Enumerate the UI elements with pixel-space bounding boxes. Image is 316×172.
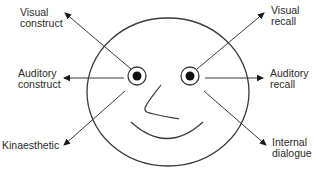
label-visual-recall: Visual recall xyxy=(271,5,299,27)
label-kinaesthetic-line1: Kinaesthetic xyxy=(2,140,59,151)
label-kinaesthetic: Kinaesthetic xyxy=(2,140,59,151)
label-auditory-construct: Auditory construct xyxy=(18,68,61,90)
visual-construct-arrow xyxy=(65,13,131,69)
right-eye-icon xyxy=(181,67,199,85)
label-visual-construct: Visual construct xyxy=(20,7,63,29)
label-auditory-recall: Auditory recall xyxy=(270,68,309,90)
nose-icon xyxy=(145,85,179,119)
visual-recall-arrow xyxy=(197,13,264,69)
label-auditory-recall-line2: recall xyxy=(270,79,309,90)
face-outline xyxy=(87,18,249,166)
label-internal-dialogue-line2: dialogue xyxy=(272,148,312,159)
left-eye-icon xyxy=(128,67,146,85)
label-visual-recall-line2: recall xyxy=(271,16,299,27)
label-visual-construct-line2: construct xyxy=(20,18,63,29)
label-auditory-construct-line2: construct xyxy=(18,79,61,90)
label-internal-dialogue: Internal dialogue xyxy=(272,137,312,159)
internal-dialogue-arrow xyxy=(204,91,266,145)
kinaesthetic-arrow xyxy=(64,91,125,145)
mouth-icon xyxy=(131,122,203,139)
